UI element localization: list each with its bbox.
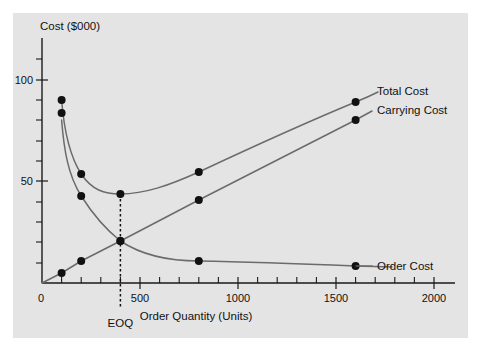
total-cost-label: Total Cost: [377, 85, 429, 97]
order-cost-point-100: [58, 109, 66, 117]
x-tick-label-500: 500: [131, 292, 149, 304]
total-cost-point-1600: [352, 98, 360, 106]
total-cost-markers: [58, 96, 360, 198]
order-cost-point-800: [195, 257, 203, 265]
carrying-cost-point-400: [116, 237, 124, 245]
y-tick-label-50: 50: [21, 175, 33, 187]
carrying-cost-point-100: [58, 269, 66, 277]
carrying-cost-point-1600: [352, 116, 360, 124]
eoq-cost-chart: 100 50 0: [0, 0, 484, 349]
order-cost-point-200: [77, 192, 85, 200]
total-cost-point-200: [77, 170, 85, 178]
total-cost-point-100: [58, 96, 66, 104]
x-tick-label-1000: 1000: [226, 292, 250, 304]
y-tick-label-0: 0: [38, 292, 44, 304]
x-axis-title: Order Quantity (Units): [140, 310, 253, 322]
axes-group: [42, 38, 455, 283]
order-cost-markers: [58, 109, 360, 270]
total-cost-curve: [62, 92, 378, 194]
y-axis-tick-labels: 100 50 0: [15, 74, 44, 304]
carrying-cost-label: Carrying Cost: [377, 104, 448, 116]
x-tick-label-2000: 2000: [422, 292, 446, 304]
total-cost-point-400: [116, 190, 124, 198]
carrying-cost-curve: [42, 111, 372, 283]
figure-root: 100 50 0: [0, 0, 484, 349]
carrying-cost-point-200: [77, 257, 85, 265]
carrying-cost-markers: [58, 116, 360, 277]
x-axis-tick-labels: 500 1000 1500 2000: [131, 292, 446, 304]
total-cost-point-800: [195, 168, 203, 176]
order-cost-label: Order Cost: [377, 260, 434, 272]
x-tick-label-1500: 1500: [324, 292, 348, 304]
carrying-cost-point-800: [195, 196, 203, 204]
eoq-label: EOQ: [108, 317, 134, 329]
y-axis-title: Cost ($000): [40, 20, 100, 32]
y-tick-label-100: 100: [15, 74, 33, 86]
